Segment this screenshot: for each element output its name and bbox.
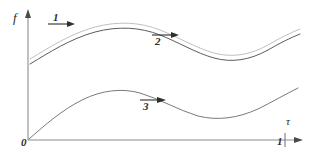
curve-label-two: 2	[155, 36, 161, 47]
origin-label: 0	[21, 137, 27, 148]
curve-label-three: 3	[143, 101, 149, 112]
curve-three-path	[29, 88, 298, 139]
x-axis-label: τ	[286, 116, 290, 127]
x-axis	[28, 133, 303, 147]
figure-canvas	[0, 0, 312, 156]
annotation-two-arrowhead	[171, 32, 179, 38]
y-axis-arrowhead	[25, 9, 31, 18]
curve-two-path	[30, 28, 300, 64]
x-axis-arrowhead	[294, 137, 303, 143]
annotation-one-arrowhead	[67, 21, 75, 27]
figure-container: f τ 0 1 1 2 3	[0, 0, 312, 156]
y-axis-label: f	[13, 11, 17, 24]
y-axis	[25, 9, 31, 140]
x-axis-tick-label-one: 1	[277, 136, 283, 147]
curve-label-one: 1	[53, 12, 59, 23]
